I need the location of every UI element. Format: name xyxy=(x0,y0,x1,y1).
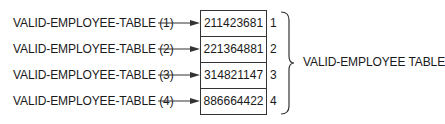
arrow-right-icon xyxy=(158,71,200,79)
arrow-right-icon xyxy=(158,97,200,105)
curly-brace-icon xyxy=(276,10,296,116)
reference-label-3: VALID-EMPLOYEE-TABLE (3) xyxy=(13,68,174,82)
reference-label-1: VALID-EMPLOYEE-TABLE (1) xyxy=(13,16,174,30)
table-name-label: VALID-EMPLOYEE TABLE xyxy=(303,55,445,69)
reference-label-2: VALID-EMPLOYEE-TABLE (2) xyxy=(13,42,174,56)
employee-table: 211423681 221364881 314821147 886664422 xyxy=(200,10,267,115)
arrow-right-icon xyxy=(158,19,200,27)
table-cell-3: 314821147 xyxy=(201,62,266,88)
reference-label-4: VALID-EMPLOYEE-TABLE (4) xyxy=(13,94,174,108)
table-cell-4: 886664422 xyxy=(201,88,266,114)
table-cell-2: 221364881 xyxy=(201,36,266,62)
table-cell-1: 211423681 xyxy=(201,11,266,36)
arrow-right-icon xyxy=(158,45,200,53)
